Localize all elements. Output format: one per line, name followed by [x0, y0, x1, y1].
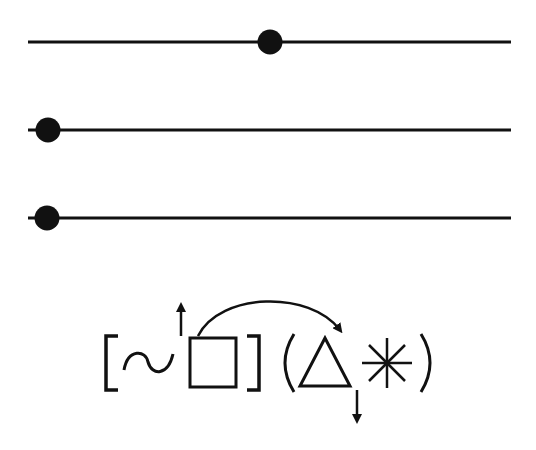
diagram-canvas [0, 0, 536, 450]
curved-arrow-icon [198, 301, 340, 336]
slider-dot[interactable] [258, 30, 283, 55]
square-icon [190, 338, 236, 387]
track-2[interactable] [28, 118, 511, 143]
asterisk-icon [362, 338, 412, 388]
open-bracket-icon [106, 336, 118, 390]
close-paren-icon [421, 334, 430, 392]
triangle-icon [300, 338, 350, 386]
track-3[interactable] [28, 206, 511, 231]
close-bracket-icon [247, 336, 259, 390]
slider-dot[interactable] [35, 206, 60, 231]
tilde-icon [124, 353, 173, 372]
slider-dot[interactable] [36, 118, 61, 143]
open-paren-icon [285, 334, 294, 392]
symbol-expression [106, 301, 430, 420]
track-1[interactable] [28, 30, 511, 55]
